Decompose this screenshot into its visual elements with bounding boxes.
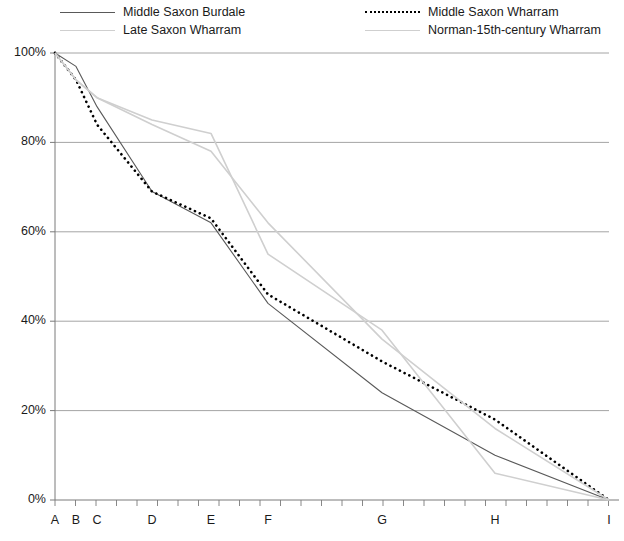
chart-svg (0, 0, 624, 541)
x-axis-tick-label: D (142, 513, 162, 527)
x-axis-tick-label: F (258, 513, 278, 527)
y-axis-tick-label: 0% (2, 492, 46, 506)
x-axis-tick-label: B (66, 513, 86, 527)
x-axis-tick-label: H (485, 513, 505, 527)
series-line (55, 53, 609, 500)
x-axis-tick-label: A (45, 513, 65, 527)
y-axis-tick-label: 100% (2, 45, 46, 59)
chart-page: Middle Saxon BurdaleLate Saxon WharramMi… (0, 0, 624, 541)
series-line (55, 53, 609, 500)
y-axis-tick-label: 40% (2, 313, 46, 327)
axis-ticks (50, 53, 609, 506)
x-axis-tick-label: I (599, 513, 619, 527)
y-axis-tick-label: 20% (2, 403, 46, 417)
chart-plot-area: 0%20%40%60%80%100% ABCDEFGHI (0, 0, 624, 541)
data-series (55, 53, 609, 500)
y-axis-tick-label: 80% (2, 134, 46, 148)
x-axis-tick-label: C (87, 513, 107, 527)
x-axis-tick-label: G (372, 513, 392, 527)
series-line (55, 53, 609, 500)
series-line (55, 53, 609, 500)
x-axis-tick-label: E (201, 513, 221, 527)
gridlines (55, 53, 609, 411)
y-axis-tick-label: 60% (2, 224, 46, 238)
